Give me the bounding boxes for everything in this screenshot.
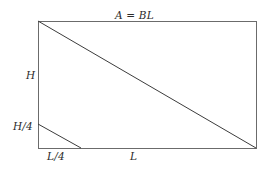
geometry-figure: A = BL H H/4 L/4 L [0,0,265,180]
label-height: H [26,70,35,81]
label-height-quarter: H/4 [13,121,33,132]
small-triangle-hypotenuse [38,124,81,148]
main-diagonal-line [38,21,256,148]
label-length-quarter: L/4 [47,151,65,162]
label-area-formula: A = BL [115,10,154,21]
label-length: L [130,151,137,162]
